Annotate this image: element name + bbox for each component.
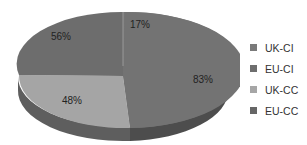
- legend-swatch: [250, 65, 257, 72]
- legend-label: UK-CI: [265, 42, 294, 54]
- label-56: 56%: [51, 31, 71, 42]
- label-17: 17%: [130, 19, 150, 30]
- legend-item-eu-cc: EU-CC: [250, 100, 298, 121]
- legend-label: EU-CC: [265, 105, 298, 117]
- legend-swatch: [250, 86, 257, 93]
- pie-chart: 17% 83% 48% 56%: [0, 0, 240, 145]
- legend-label: UK-CC: [265, 84, 298, 96]
- legend-swatch: [250, 107, 257, 114]
- legend-item-eu-ci: EU-CI: [250, 58, 298, 79]
- label-83: 83%: [193, 74, 213, 85]
- legend: UK-CI EU-CI UK-CC EU-CC: [250, 37, 298, 121]
- label-48: 48%: [62, 95, 82, 106]
- slice-upper-left: [17, 12, 123, 76]
- legend-item-uk-cc: UK-CC: [250, 79, 298, 100]
- legend-label: EU-CI: [265, 63, 294, 75]
- legend-swatch: [250, 44, 257, 51]
- legend-item-uk-ci: UK-CI: [250, 37, 298, 58]
